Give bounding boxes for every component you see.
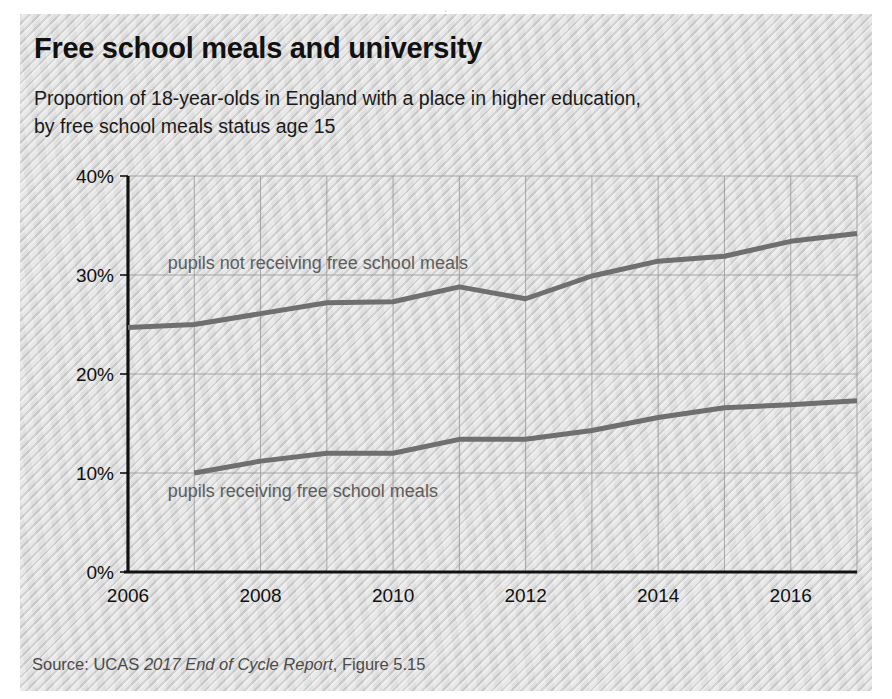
x-axis-tick-label: 2006 <box>107 585 149 606</box>
source-suffix: , Figure 5.15 <box>333 655 426 673</box>
source-note: Source: UCAS 2017 End of Cycle Report, F… <box>32 655 425 674</box>
series-label-1: pupils not receiving free school meals <box>168 253 468 273</box>
x-axis-tick-labels: 200620082010201220142016 <box>107 585 812 606</box>
series-line-1 <box>128 233 857 327</box>
x-axis-tick-label: 2012 <box>504 585 546 606</box>
series-inline-labels: pupils not receiving free school mealspu… <box>168 253 468 501</box>
series-label-2: pupils receiving free school meals <box>168 481 438 501</box>
x-axis-tick-label: 2010 <box>372 585 414 606</box>
source-report-title: 2017 End of Cycle Report <box>144 655 333 673</box>
figure-panel: Free school meals and university Proport… <box>20 14 872 691</box>
source-prefix: Source: UCAS <box>32 655 144 673</box>
x-axis-tick-label: 2016 <box>770 585 812 606</box>
y-axis-tick-label: 10% <box>76 463 114 484</box>
y-axis-tick-label: 20% <box>76 364 114 385</box>
y-axis-tick-label: 40% <box>76 166 114 187</box>
x-axis-tick-label: 2008 <box>239 585 281 606</box>
line-chart-svg: 0%10%20%30%40% 200620082010201220142016 … <box>20 14 872 691</box>
y-axis-tick-label: 30% <box>76 265 114 286</box>
y-axis-tick-labels: 0%10%20%30%40% <box>76 166 128 583</box>
gridlines <box>128 176 857 572</box>
y-axis-tick-label: 0% <box>87 562 115 583</box>
x-axis-tick-label: 2014 <box>637 585 680 606</box>
chart-plot-area: 0%10%20%30%40% 200620082010201220142016 … <box>20 14 872 691</box>
